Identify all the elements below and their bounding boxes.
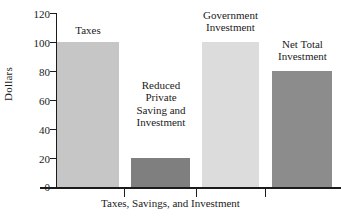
bar-label-taxes: Taxes [50,24,126,36]
bar-net-total-investment [272,71,332,187]
plot-area: Taxes Reduced Private Saving and Investm… [0,0,341,216]
bar-label-net-total-investment: Net Total Investment [264,38,341,63]
bar-label-reduced-private-saving: Reduced Private Saving and Investment [124,79,198,129]
x-axis-label: Taxes, Savings, and Investment [0,197,341,209]
bar-label-government-investment: Government Investment [182,9,279,34]
bar-chart: Dollars 120 100 80 60 40 20 0 Taxes Redu… [0,0,341,216]
bar-taxes [57,42,119,187]
bar-reduced-private-saving [131,158,190,187]
bar-government-investment [202,42,259,187]
